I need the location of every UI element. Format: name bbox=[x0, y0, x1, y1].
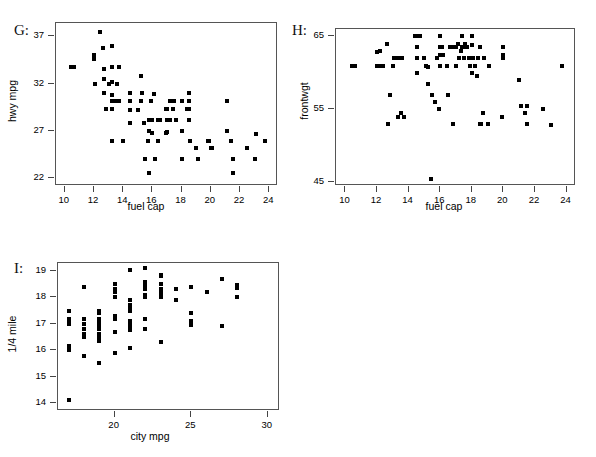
data-point bbox=[456, 42, 460, 46]
panel-H: H: frontwgt fuel cap 4555651012141618202… bbox=[298, 0, 596, 228]
data-point bbox=[400, 56, 404, 60]
data-point bbox=[437, 107, 441, 111]
panel-I-frame bbox=[57, 262, 279, 410]
data-point bbox=[115, 82, 119, 86]
data-point bbox=[113, 290, 117, 294]
data-point bbox=[110, 139, 114, 143]
data-point bbox=[174, 118, 178, 122]
data-point bbox=[82, 317, 86, 321]
data-point bbox=[159, 282, 163, 286]
data-point bbox=[82, 354, 86, 358]
data-point bbox=[441, 53, 445, 57]
data-point bbox=[67, 348, 71, 352]
data-point bbox=[487, 64, 491, 68]
data-point bbox=[159, 340, 163, 344]
x-axis-label: 18 bbox=[456, 194, 486, 205]
data-point bbox=[454, 64, 458, 68]
data-point bbox=[225, 129, 229, 133]
data-point bbox=[128, 298, 132, 302]
data-point bbox=[470, 43, 474, 47]
data-point bbox=[180, 129, 184, 133]
y-axis-tick bbox=[50, 296, 56, 297]
data-point bbox=[117, 99, 121, 103]
x-axis-label: 24 bbox=[253, 194, 283, 205]
data-point bbox=[468, 64, 472, 68]
data-point bbox=[150, 131, 154, 135]
data-point bbox=[72, 65, 76, 69]
data-point bbox=[82, 285, 86, 289]
y-axis-label: 16 bbox=[17, 343, 46, 354]
data-point bbox=[171, 107, 175, 111]
data-point bbox=[110, 93, 114, 97]
data-point bbox=[142, 121, 146, 125]
panel-I-xlabel: city mpg bbox=[110, 430, 190, 442]
y-axis-tick bbox=[50, 376, 56, 377]
data-point bbox=[422, 56, 426, 60]
data-point bbox=[473, 64, 477, 68]
data-point bbox=[153, 157, 157, 161]
x-axis-label: 10 bbox=[329, 194, 359, 205]
x-axis-label: 20 bbox=[487, 194, 517, 205]
data-point bbox=[415, 56, 419, 60]
x-axis-label: 25 bbox=[175, 419, 205, 430]
data-point bbox=[143, 327, 147, 331]
data-point bbox=[97, 311, 101, 315]
panel-H-frame bbox=[335, 28, 575, 185]
data-point bbox=[97, 361, 101, 365]
data-point bbox=[165, 107, 169, 111]
data-point bbox=[377, 64, 381, 68]
data-point bbox=[519, 104, 523, 108]
data-point bbox=[159, 295, 163, 299]
y-axis-tick bbox=[328, 181, 334, 182]
panel-H-ylabel: frontwgt bbox=[298, 71, 310, 131]
data-point bbox=[235, 286, 239, 290]
data-point bbox=[460, 34, 464, 38]
data-point bbox=[152, 92, 156, 96]
x-axis-tick bbox=[122, 186, 123, 192]
x-axis-tick bbox=[181, 186, 182, 192]
data-point bbox=[549, 123, 553, 127]
x-axis-tick bbox=[471, 186, 472, 192]
data-point bbox=[231, 157, 235, 161]
x-axis-tick bbox=[268, 186, 269, 192]
data-point bbox=[430, 93, 434, 97]
data-point bbox=[128, 121, 132, 125]
data-point bbox=[235, 295, 239, 299]
data-point bbox=[445, 64, 449, 68]
data-point bbox=[143, 157, 147, 161]
x-axis-tick bbox=[190, 411, 191, 417]
data-point bbox=[128, 309, 132, 313]
y-axis-tick bbox=[48, 35, 54, 36]
data-point bbox=[426, 82, 430, 86]
x-axis-tick bbox=[93, 186, 94, 192]
x-axis-label: 22 bbox=[224, 194, 254, 205]
x-axis-tick bbox=[344, 186, 345, 192]
x-axis-tick bbox=[267, 411, 268, 417]
data-point bbox=[110, 80, 114, 84]
data-point bbox=[523, 111, 527, 115]
data-point bbox=[187, 99, 191, 103]
y-axis-label: 19 bbox=[17, 264, 46, 275]
panel-H-points bbox=[336, 29, 574, 184]
y-axis-tick bbox=[50, 270, 56, 271]
data-point bbox=[194, 146, 198, 150]
data-point bbox=[378, 49, 382, 53]
data-point bbox=[415, 71, 419, 75]
data-point bbox=[500, 115, 504, 119]
x-axis-label: 10 bbox=[49, 194, 79, 205]
data-point bbox=[128, 99, 132, 103]
data-point bbox=[386, 122, 390, 126]
data-point bbox=[159, 274, 163, 278]
panel-G-frame bbox=[55, 22, 277, 185]
data-point bbox=[113, 317, 117, 321]
x-axis-label: 20 bbox=[195, 194, 225, 205]
x-axis-tick bbox=[151, 186, 152, 192]
data-point bbox=[102, 77, 106, 81]
data-point bbox=[93, 82, 97, 86]
y-axis-label: 22 bbox=[15, 171, 44, 182]
y-axis-label: 27 bbox=[15, 124, 44, 135]
data-point bbox=[475, 74, 479, 78]
data-point bbox=[438, 34, 442, 38]
data-point bbox=[102, 91, 106, 95]
data-point bbox=[67, 322, 71, 326]
